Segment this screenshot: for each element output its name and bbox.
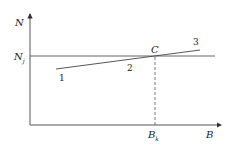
point-x-label: Bk [147,129,159,142]
line-label-1: 1 [59,73,65,83]
point-c-label: C [151,44,159,55]
line-label-3: 3 [193,37,199,47]
level-label: Nj [13,51,25,65]
x-axis-label: B [205,129,213,140]
diagram-canvas: N Nj C 1 2 3 Bk B [0,0,236,145]
y-axis-label: N [14,17,25,28]
line-label-2: 2 [127,63,133,73]
